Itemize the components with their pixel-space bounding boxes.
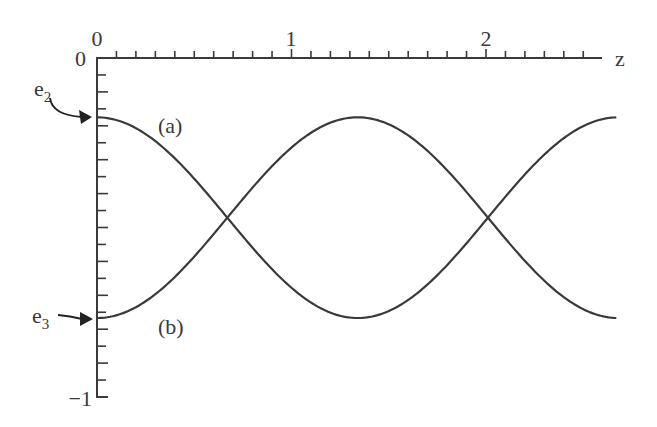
curve-a-label: (a) bbox=[158, 113, 182, 138]
e3-arrow-icon bbox=[58, 315, 82, 319]
axes bbox=[96, 57, 602, 397]
e3-arrowhead-icon bbox=[80, 312, 93, 326]
e3-subscript: 3 bbox=[42, 316, 50, 332]
x-tick-label-2: 2 bbox=[481, 26, 492, 51]
curve-a-line bbox=[97, 117, 616, 318]
e2-annotation: e2 bbox=[34, 76, 92, 124]
chart-plot: 0 1 2 z 0 −1 (a) (b) e2 e3 bbox=[0, 0, 657, 427]
x-tick-label-0: 0 bbox=[92, 26, 103, 51]
e2-arrow-icon bbox=[50, 98, 82, 117]
x-axis-label: z bbox=[615, 46, 625, 71]
e3-label: e bbox=[32, 303, 42, 328]
y-tick-label-neg1: −1 bbox=[69, 386, 92, 411]
curve-b-label: (b) bbox=[158, 314, 184, 339]
x-tick-label-1: 1 bbox=[286, 26, 297, 51]
curves bbox=[97, 117, 616, 318]
e2-arrowhead-icon bbox=[79, 110, 92, 124]
y-tick-label-0: 0 bbox=[75, 46, 86, 71]
e2-label: e bbox=[34, 76, 44, 101]
x-ticks bbox=[116, 49, 583, 58]
e3-annotation: e3 bbox=[32, 303, 93, 332]
y-ticks bbox=[97, 75, 108, 380]
curve-b-line bbox=[97, 117, 616, 318]
svg-text:e2: e2 bbox=[34, 76, 51, 105]
svg-text:e3: e3 bbox=[32, 303, 49, 332]
